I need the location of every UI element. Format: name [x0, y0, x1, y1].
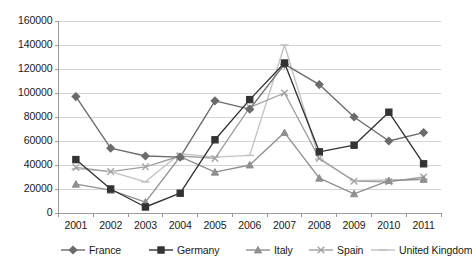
x-tick-label-2010: 2010: [371, 219, 406, 231]
legend-marker-glyph: [69, 246, 76, 253]
legend-item-france[interactable]: France: [60, 241, 121, 259]
data-point-germany: [421, 161, 427, 167]
legend-label-germany: Germany: [177, 243, 219, 257]
data-point-germany: [386, 109, 392, 115]
y-tick-label: 60000: [24, 134, 53, 146]
data-point-italy: [281, 129, 288, 136]
x-tick-label-2003: 2003: [128, 219, 163, 231]
data-point-france: [142, 152, 149, 159]
x-tick-label-2008: 2008: [302, 219, 337, 231]
data-point-germany: [247, 97, 253, 103]
y-tick-label: 160000: [18, 14, 52, 26]
legend-label-united-kingdom: United Kingdom: [399, 243, 472, 257]
data-point-germany: [281, 60, 287, 66]
data-point-italy: [72, 181, 79, 188]
x-tick-label-2005: 2005: [198, 219, 233, 231]
data-point-germany: [316, 149, 322, 155]
x-tick-label-2006: 2006: [232, 219, 267, 231]
data-point-germany: [212, 137, 218, 143]
legend-marker-dash-icon: [370, 243, 396, 257]
legend-item-spain[interactable]: Spain: [308, 241, 363, 259]
x-tick-label-2004: 2004: [163, 219, 198, 231]
y-tick-label: 20000: [24, 182, 53, 194]
legend-item-united-kingdom[interactable]: United Kingdom: [370, 241, 472, 259]
legend-marker-x-icon: [308, 243, 334, 257]
y-tick-label: 0: [47, 206, 53, 218]
series-markers: [72, 45, 428, 210]
x-tick-label-2001: 2001: [59, 219, 94, 231]
data-point-germany: [142, 204, 148, 210]
legend-label-spain: Spain: [337, 243, 363, 257]
y-tick-label: 120000: [18, 62, 52, 74]
legend-label-france: France: [89, 243, 121, 257]
chart-legend: FranceGermanyItalySpainUnited Kingdom: [0, 241, 449, 261]
x-tick-label-2009: 2009: [337, 219, 372, 231]
legend-label-italy: Italy: [274, 243, 293, 257]
data-point-france: [211, 97, 218, 104]
data-point-france: [107, 145, 114, 152]
legend-item-italy[interactable]: Italy: [245, 241, 293, 259]
legend-item-germany[interactable]: Germany: [148, 241, 219, 259]
data-point-germany: [351, 142, 357, 148]
legend-marker-glyph: [158, 247, 164, 253]
legend-marker-square-icon: [148, 243, 174, 257]
x-tick-label-2007: 2007: [267, 219, 302, 231]
y-tick-label: 40000: [24, 158, 53, 170]
data-point-germany: [177, 190, 183, 196]
data-point-germany: [73, 157, 79, 163]
data-point-france: [420, 129, 427, 136]
y-tick-label: 140000: [18, 38, 52, 50]
legend-marker-diamond-icon: [60, 243, 86, 257]
y-tick-label: 100000: [18, 86, 52, 98]
data-point-france: [72, 93, 79, 100]
series-line-germany: [76, 63, 424, 207]
y-tick-label: 80000: [24, 110, 53, 122]
legend-marker-triangle-icon: [245, 243, 271, 257]
x-tick-label-2002: 2002: [93, 219, 128, 231]
x-tick-label-2011: 2011: [406, 219, 441, 231]
data-point-germany: [108, 186, 114, 192]
